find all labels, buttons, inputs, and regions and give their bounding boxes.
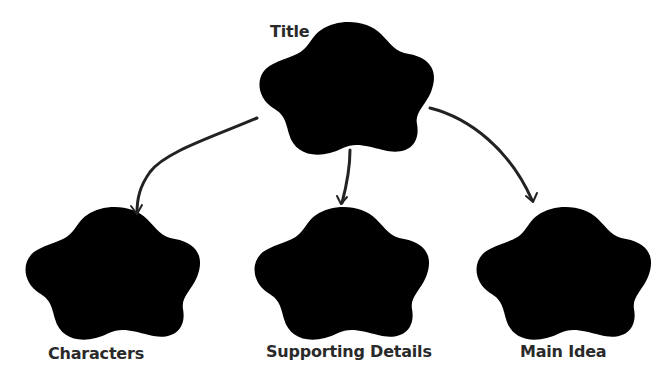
main-idea-flower-shape — [477, 207, 652, 340]
supporting-details-flower-shape — [255, 207, 430, 340]
arrow-title-to-characters — [131, 118, 257, 214]
main-idea-label: Main Idea — [520, 342, 606, 361]
arrow-title-to-main-idea — [430, 108, 537, 202]
title-label: Title — [270, 22, 309, 41]
arrow-title-to-supporting-details — [337, 150, 350, 204]
characters-label: Characters — [48, 344, 144, 363]
characters-flower-shape — [26, 207, 201, 340]
title-flower-shape — [260, 22, 435, 155]
diagram-canvas — [0, 0, 672, 379]
supporting-details-label: Supporting Details — [266, 342, 432, 361]
